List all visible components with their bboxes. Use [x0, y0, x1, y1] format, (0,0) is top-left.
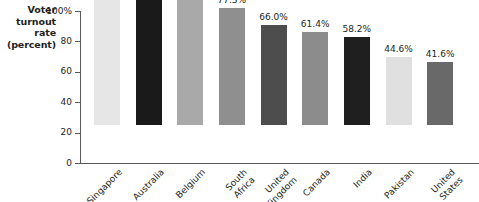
y-tick-label: 80 — [61, 35, 72, 48]
bar-value-label: 44.6% — [384, 44, 413, 55]
x-axis-label-line: Canada — [301, 167, 332, 198]
bar[interactable]: 41.6% — [427, 62, 453, 125]
x-axis-label-singapore: Singapore — [85, 167, 125, 202]
y-tick-label: 100% — [46, 5, 72, 18]
x-axis-label-belgium: Belgium — [174, 167, 208, 201]
bar[interactable]: 66.0% — [261, 25, 287, 125]
x-axis-label-united-states: UnitedStates — [429, 167, 465, 202]
x-axis-label-pakistan: Pakistan — [382, 167, 416, 201]
bar[interactable]: 61.4% — [302, 32, 328, 125]
y-tick-label: 0 — [66, 157, 72, 170]
y-axis-title-line-3: rate — [0, 27, 56, 39]
x-axis-category-labels: SingaporeAustraliaBelgiumSouthAfricaUnit… — [80, 164, 479, 202]
x-axis-label-india: India — [351, 167, 374, 190]
bar-value-label: 58.2% — [343, 24, 372, 35]
bar-value-label: 77.3% — [218, 0, 247, 6]
bar[interactable]: 44.6% — [386, 57, 412, 125]
bar-value-label: 41.6% — [426, 49, 455, 60]
bar[interactable]: 77.3% — [219, 8, 245, 125]
bar[interactable]: 89.2% — [177, 0, 203, 125]
x-axis-label-line: Singapore — [85, 167, 124, 202]
y-tick-label: 20 — [61, 126, 72, 139]
x-axis-label-line: Belgium — [174, 167, 207, 200]
x-axis-label-line: Australia — [130, 167, 165, 202]
bars-group: 93.2%93.2%89.2%77.3%66.0%61.4%58.2%44.6%… — [80, 0, 479, 164]
x-axis-label-united-kingdom: UnitedKingdom — [255, 167, 298, 202]
x-axis-label-line: India — [351, 167, 374, 190]
bar[interactable]: 93.2% — [136, 0, 162, 125]
x-axis-label-canada: Canada — [301, 167, 333, 199]
bar-chart: Voter turnout rate (percent) 100%8060402… — [0, 0, 479, 202]
bar[interactable]: 58.2% — [344, 37, 370, 125]
x-axis-label-australia: Australia — [130, 167, 166, 202]
bar-value-label: 61.4% — [301, 19, 330, 30]
x-axis-label-south-africa: SouthAfrica — [223, 167, 256, 200]
y-tick-label: 60 — [61, 65, 72, 78]
bar-value-label: 66.0% — [259, 12, 288, 23]
y-tick-label: 40 — [61, 96, 72, 109]
y-axis-title-line-4: (percent) — [0, 39, 56, 51]
bar[interactable]: 93.2% — [94, 0, 120, 125]
x-axis-label-line: Pakistan — [382, 167, 416, 201]
plot-area: 100%806040200 93.2%93.2%89.2%77.3%66.0%6… — [80, 0, 479, 202]
